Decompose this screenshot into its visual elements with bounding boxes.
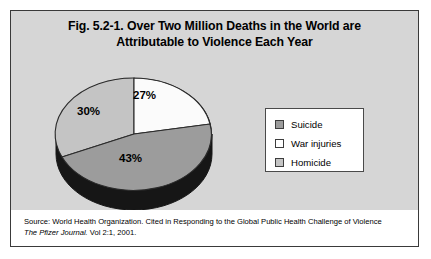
- legend-item-war-injuries: War injuries: [275, 135, 363, 152]
- legend-item-suicide: Suicide: [275, 116, 363, 133]
- chart-plot-area: 27% 30% 43% Suicide War injuries Homicid…: [11, 58, 418, 210]
- legend-label-war-injuries: War injuries: [291, 138, 341, 149]
- figure-title: Fig. 5.2-1. Over Two Million Deaths in t…: [11, 11, 418, 58]
- source-line-2: The Pfizer Journal. Vol 2:1, 2001.: [24, 228, 418, 239]
- legend-item-homicide: Homicide: [275, 154, 363, 171]
- pie-chart: 27% 30% 43%: [53, 58, 215, 210]
- legend-swatch-homicide: [275, 158, 284, 167]
- legend-label-homicide: Homicide: [291, 157, 331, 168]
- legend-swatch-suicide: [275, 120, 284, 129]
- pie-chart-svg: [53, 58, 215, 210]
- title-line-2: Attributable to Violence Each Year: [116, 35, 312, 51]
- pie-label-suicide: 43%: [119, 152, 142, 164]
- source-journal-title: The Pfizer Journal.: [24, 228, 88, 237]
- chart-legend: Suicide War injuries Homicide: [265, 108, 364, 172]
- figure-source-note: Source: World Health Organization. Cited…: [11, 210, 418, 246]
- source-line-1: Source: World Health Organization. Cited…: [24, 217, 418, 228]
- pie-label-homicide: 30%: [77, 105, 100, 117]
- figure-container: Fig. 5.2-1. Over Two Million Deaths in t…: [10, 10, 419, 247]
- source-volume-year: Vol 2:1, 2001.: [88, 228, 137, 237]
- legend-swatch-war-injuries: [275, 139, 284, 148]
- title-line-1: Fig. 5.2-1. Over Two Million Deaths in t…: [68, 19, 361, 35]
- legend-label-suicide: Suicide: [291, 119, 322, 130]
- pie-label-war-injuries: 27%: [133, 89, 156, 101]
